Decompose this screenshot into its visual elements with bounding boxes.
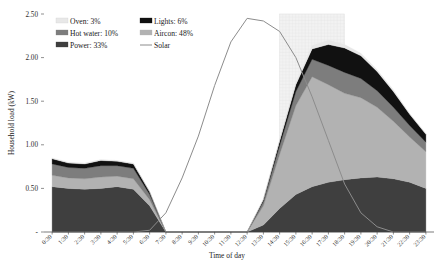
x-tick-label: 18:30 [330, 233, 345, 248]
x-tick-label: 14:30 [265, 233, 280, 248]
x-tick-label: 6:30 [138, 233, 151, 246]
x-tick-label: 17:30 [314, 233, 329, 248]
x-axis-title: Time of day [209, 251, 245, 260]
legend-label: Lights: 6% [154, 17, 188, 26]
y-axis: -0.501.001.502.002.50 [25, 11, 44, 237]
x-tick-label: 22:30 [395, 233, 410, 248]
x-tick-label: 5:30 [121, 233, 134, 246]
legend-item[interactable]: Oven: 3% [56, 17, 101, 26]
legend-item[interactable]: Solar [140, 41, 171, 50]
legend-color-swatch [56, 42, 68, 47]
chart-canvas: -0.501.001.502.002.50Household load (kW)… [0, 0, 442, 266]
legend-label: Hot water: 10% [70, 29, 119, 38]
x-tick-label: 0:30 [40, 233, 53, 246]
y-tick-label: 2.50 [25, 11, 38, 19]
x-tick-label: 16:30 [298, 233, 313, 248]
legend-color-swatch [56, 30, 68, 35]
legend-color-swatch [140, 30, 152, 35]
legend-label: Solar [154, 41, 171, 50]
household-load-chart: -0.501.001.502.002.50Household load (kW)… [0, 0, 442, 266]
x-tick-label: 10:30 [200, 233, 215, 248]
legend-color-swatch [56, 18, 68, 23]
x-tick-label: 4:30 [105, 233, 118, 246]
x-tick-label: 1:30 [56, 233, 69, 246]
y-tick-label: 1.50 [25, 98, 38, 106]
x-tick-label: 13:30 [249, 233, 264, 248]
legend-color-swatch [140, 18, 152, 23]
stacked-areas [52, 40, 426, 232]
legend-item[interactable]: Power: 33% [56, 41, 108, 50]
legend-label: Aircon: 48% [154, 29, 194, 38]
x-tick-label: 2:30 [73, 233, 86, 246]
y-tick-label: 1.00 [25, 141, 38, 149]
x-tick-label: 8:30 [170, 233, 183, 246]
legend-label: Oven: 3% [70, 17, 101, 26]
x-tick-label: 15:30 [282, 233, 297, 248]
legend-item[interactable]: Aircon: 48% [140, 29, 194, 38]
x-tick-label: 11:30 [217, 233, 232, 248]
legend: Oven: 3%Lights: 6%Hot water: 10%Aircon: … [56, 17, 194, 50]
y-tick-label: - [36, 229, 39, 237]
x-tick-label: 20:30 [363, 233, 378, 248]
x-tick-label: 9:30 [186, 233, 199, 246]
y-tick-label: 0.50 [25, 185, 38, 193]
legend-label: Power: 33% [70, 41, 108, 50]
x-tick-label: 12:30 [233, 233, 248, 248]
y-tick-label: 2.00 [25, 54, 38, 62]
x-axis-labels: 0:301:302:303:304:305:306:307:308:309:30… [40, 232, 426, 248]
x-tick-label: 19:30 [347, 233, 362, 248]
legend-item[interactable]: Lights: 6% [140, 17, 188, 26]
x-tick-label: 3:30 [89, 233, 102, 246]
x-tick-label: 23:30 [412, 233, 427, 248]
legend-item[interactable]: Hot water: 10% [56, 29, 119, 38]
y-axis-title: Household load (kW) [7, 90, 16, 155]
x-tick-label: 21:30 [379, 233, 394, 248]
x-tick-label: 7:30 [154, 233, 167, 246]
